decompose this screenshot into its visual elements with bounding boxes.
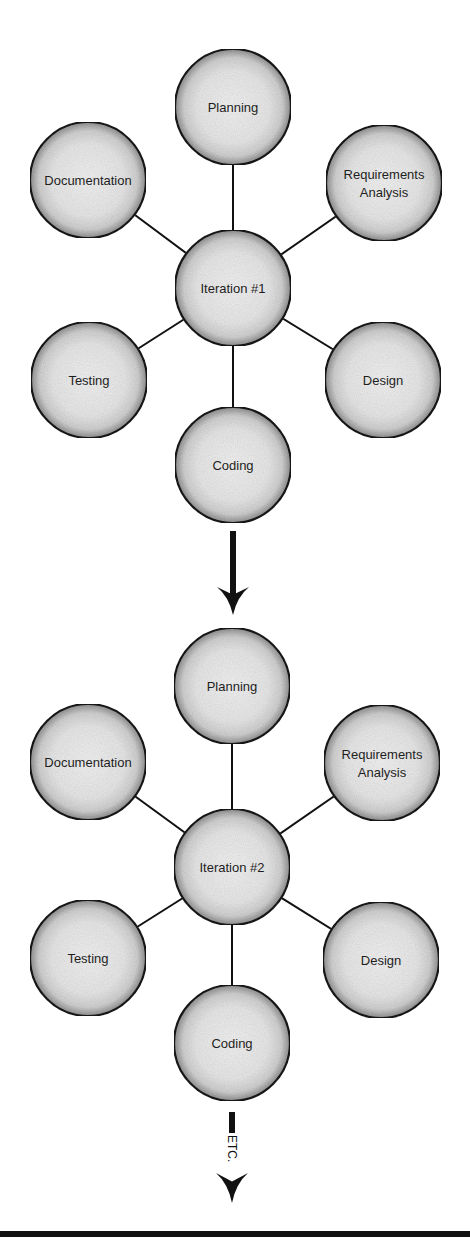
phase-node-planning-label: Planning bbox=[208, 100, 259, 115]
phase-node-requirements-analysis: RequirementsAnalysis bbox=[324, 705, 440, 821]
phase-node-testing: Testing bbox=[31, 322, 147, 438]
phase-node-testing-label: Testing bbox=[67, 951, 108, 966]
iteration-center-node: Iteration #2 bbox=[174, 809, 290, 925]
phase-node-documentation-label: Documentation bbox=[44, 173, 131, 188]
phase-node-coding-label: Coding bbox=[212, 458, 253, 473]
phase-node-design-label: Design bbox=[363, 373, 403, 388]
phase-node-planning-label: Planning bbox=[207, 679, 258, 694]
arrow-iteration-transition bbox=[217, 531, 249, 615]
phase-node-design: Design bbox=[325, 322, 441, 438]
phase-node-requirements-analysis: RequirementsAnalysis bbox=[326, 125, 442, 241]
phase-node-planning: Planning bbox=[175, 49, 291, 165]
phase-node-testing: Testing bbox=[30, 900, 146, 1016]
phase-node-documentation-label: Documentation bbox=[44, 755, 131, 770]
iteration-center-node: Iteration #1 bbox=[175, 230, 291, 346]
phase-node-design: Design bbox=[323, 902, 439, 1018]
phase-node-requirements-analysis-label: Requirements bbox=[344, 167, 425, 182]
bottom-rule bbox=[0, 1231, 470, 1237]
phase-node-documentation: Documentation bbox=[30, 704, 146, 820]
phase-node-coding: Coding bbox=[175, 407, 291, 523]
iteration-center-node-label: Iteration #1 bbox=[200, 281, 265, 296]
iteration-center-node-label: Iteration #2 bbox=[199, 860, 264, 875]
phase-node-requirements-analysis-label: Analysis bbox=[360, 185, 409, 200]
phase-node-testing-label: Testing bbox=[68, 373, 109, 388]
phase-node-documentation: Documentation bbox=[30, 122, 146, 238]
phase-node-planning: Planning bbox=[174, 628, 290, 744]
phase-node-design-label: Design bbox=[361, 953, 401, 968]
iterative-cycle-diagram: PlanningRequirementsAnalysisDesignCoding… bbox=[0, 0, 470, 1250]
phase-node-coding: Coding bbox=[174, 985, 290, 1101]
phase-node-coding-label: Coding bbox=[211, 1036, 252, 1051]
arrow-head-icon bbox=[216, 1173, 248, 1203]
arrow-shaft bbox=[230, 531, 236, 595]
phase-node-requirements-analysis-circle bbox=[326, 125, 442, 241]
phase-node-requirements-analysis-circle bbox=[324, 705, 440, 821]
phase-node-requirements-analysis-label: Requirements bbox=[342, 747, 423, 762]
etc-label: ETC. bbox=[225, 1135, 239, 1162]
arrow-continuation: ETC. bbox=[216, 1112, 248, 1203]
arrow-shaft bbox=[229, 1112, 235, 1133]
phase-node-requirements-analysis-label: Analysis bbox=[358, 765, 407, 780]
